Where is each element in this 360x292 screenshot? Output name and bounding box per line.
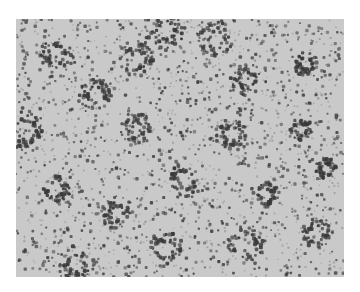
micrograph-image (16, 19, 344, 277)
particle-field (16, 19, 344, 277)
